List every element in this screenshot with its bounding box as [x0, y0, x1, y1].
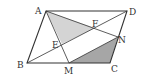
- label-d: D: [129, 7, 136, 17]
- label-f: F: [92, 19, 98, 29]
- label-b: B: [17, 60, 24, 70]
- label-a: A: [34, 6, 42, 16]
- label-e: E: [52, 40, 59, 50]
- label-n: N: [118, 35, 126, 45]
- label-c: C: [111, 64, 118, 74]
- label-m: M: [64, 66, 73, 76]
- parallelogram-diagram: A D B C M N E F: [0, 0, 144, 81]
